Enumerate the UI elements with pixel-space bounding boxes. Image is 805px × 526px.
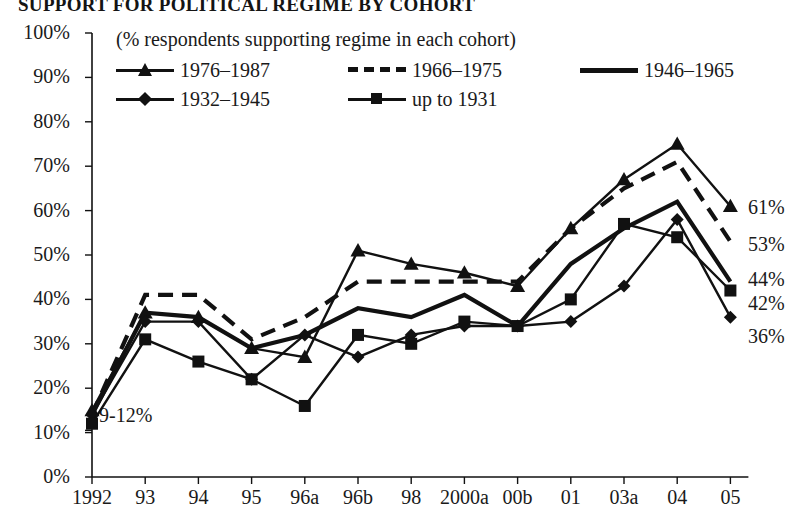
data-point-square xyxy=(724,285,736,297)
data-point-square xyxy=(86,418,98,430)
data-point-diamond xyxy=(352,351,365,364)
series-line xyxy=(92,202,730,415)
data-point-square xyxy=(405,338,417,350)
data-point-square xyxy=(458,316,470,328)
data-point-square xyxy=(246,373,258,385)
data-point-diamond xyxy=(564,315,577,328)
data-point-square xyxy=(299,400,311,412)
plot-area xyxy=(0,0,805,526)
series-line xyxy=(92,224,730,424)
data-point-square xyxy=(352,329,364,341)
data-point-triangle xyxy=(617,172,632,185)
data-point-square xyxy=(618,218,630,230)
data-point-square xyxy=(139,333,151,345)
data-point-square xyxy=(192,356,204,368)
series-1976-1987 xyxy=(85,137,738,417)
data-point-triangle xyxy=(670,137,685,150)
data-point-triangle xyxy=(351,243,366,256)
data-point-square xyxy=(671,231,683,243)
series-up-to-1931 xyxy=(86,218,736,430)
series-1946-1965 xyxy=(92,202,730,415)
data-point-square xyxy=(512,320,524,332)
series-line xyxy=(92,162,730,415)
data-point-diamond xyxy=(724,311,737,324)
series-1966-1975 xyxy=(92,162,730,415)
series-line xyxy=(92,144,730,410)
data-point-square xyxy=(565,293,577,305)
chart-root: SUPPORT FOR POLITICAL REGIME BY COHORT (… xyxy=(0,0,805,526)
